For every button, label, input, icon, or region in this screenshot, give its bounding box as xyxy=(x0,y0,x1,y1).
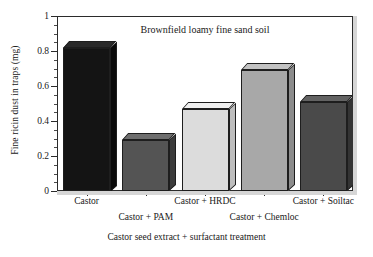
x-category-label-2: Castor + PAM xyxy=(118,212,173,222)
bar-1[interactable] xyxy=(63,48,110,192)
bar-front-face xyxy=(300,102,347,191)
bar-top-face xyxy=(241,63,294,70)
x-axis-title: Castor seed extract + surfactant treatme… xyxy=(0,232,373,242)
bar-chart-figure: Fine ricin dust in traps (mg) Brownfield… xyxy=(0,0,373,257)
y-axis-minor-tick xyxy=(54,174,58,175)
bar-4[interactable] xyxy=(241,70,288,191)
y-axis-title: Fine ricin dust in traps (mg) xyxy=(10,15,20,185)
y-axis-minor-tick xyxy=(54,95,58,96)
chart-title: Brownfield loamy fine sand soil xyxy=(57,24,353,35)
bar-front-face xyxy=(241,70,288,191)
y-axis-minor-tick xyxy=(54,182,58,183)
y-axis-tick xyxy=(51,51,57,52)
plot-area: Brownfield loamy fine sand soil 00.20.40… xyxy=(57,16,353,191)
bar-top-face xyxy=(63,41,116,48)
bar-top-face xyxy=(182,102,235,109)
bar-front-face xyxy=(63,48,110,192)
y-axis-tick-label: 0.4 xyxy=(37,116,49,126)
y-axis-tick xyxy=(51,16,57,17)
y-axis-minor-tick xyxy=(54,104,58,105)
bar-5[interactable] xyxy=(300,102,347,191)
bar-front-face xyxy=(122,140,169,191)
bar-front-face xyxy=(182,109,229,191)
y-axis-minor-tick xyxy=(54,130,58,131)
bar-top-face xyxy=(122,133,175,140)
y-axis-tick-label: 0.6 xyxy=(37,81,49,91)
y-axis-minor-tick xyxy=(54,165,58,166)
x-category-label-1: Castor xyxy=(74,196,99,206)
bar-side-face xyxy=(288,64,295,191)
y-axis-tick xyxy=(51,121,57,122)
y-axis-minor-tick xyxy=(54,60,58,61)
y-axis-tick xyxy=(51,156,57,157)
x-category-label-4: Castor + Chemloc xyxy=(230,212,299,222)
y-axis-minor-tick xyxy=(54,147,58,148)
y-axis-tick xyxy=(51,86,57,87)
plot-3d-wall-top xyxy=(353,16,357,191)
y-axis-tick-label: 0 xyxy=(44,186,49,196)
y-axis-minor-tick xyxy=(54,42,58,43)
bar-side-face xyxy=(229,102,236,191)
x-category-label-5: Castor + Soiltac xyxy=(293,196,354,206)
y-axis-minor-tick xyxy=(54,112,58,113)
x-category-label-3: Castor + HRDC xyxy=(174,196,235,206)
y-axis-minor-tick xyxy=(54,34,58,35)
y-axis-minor-tick xyxy=(54,69,58,70)
y-axis-tick-label: 0.8 xyxy=(37,46,49,56)
bar-side-face xyxy=(110,41,117,191)
y-axis-minor-tick xyxy=(54,139,58,140)
y-axis-minor-tick xyxy=(54,25,58,26)
y-axis-minor-tick xyxy=(54,77,58,78)
y-axis-tick-label: 1 xyxy=(44,11,49,21)
bar-top-face xyxy=(300,95,353,102)
bar-side-face xyxy=(169,134,176,191)
plot-3d-wall-bottom xyxy=(57,191,357,195)
bar-2[interactable] xyxy=(122,140,169,191)
y-axis-tick-label: 0.2 xyxy=(37,151,49,161)
bar-3[interactable] xyxy=(182,109,229,191)
